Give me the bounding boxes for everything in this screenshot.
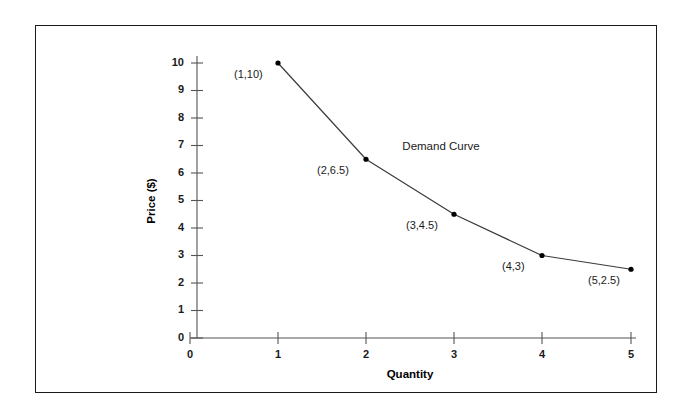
x-axis-tick-labels: 0 1 2 3 4 5 xyxy=(187,348,634,360)
y-tick-label-2: 2 xyxy=(178,276,184,288)
data-point-marker xyxy=(628,267,633,272)
demand-curve-annotation: Demand Curve xyxy=(402,140,479,152)
data-point-marker xyxy=(451,212,456,217)
x-tick-label-5: 5 xyxy=(628,348,634,360)
data-point-labels: (1,10) (2,6.5) (3,4.5) (4,3) (5,2.5) xyxy=(234,68,620,286)
y-tick-label-1: 1 xyxy=(178,303,184,315)
data-point-marker xyxy=(363,157,368,162)
x-tick-label-0: 0 xyxy=(187,348,193,360)
y-tick-label-4: 4 xyxy=(178,221,185,233)
data-point-label: (3,4.5) xyxy=(406,219,438,231)
y-tick-label-5: 5 xyxy=(178,193,184,205)
data-point-marker xyxy=(539,253,544,258)
data-point-label: (1,10) xyxy=(234,68,263,80)
y-tick-label-6: 6 xyxy=(178,166,184,178)
y-tick-label-3: 3 xyxy=(178,248,184,260)
y-tick-label-0: 0 xyxy=(178,331,184,343)
x-tick-label-4: 4 xyxy=(539,348,546,360)
y-tick-label-10: 10 xyxy=(172,56,184,68)
data-point-label: (2,6.5) xyxy=(317,164,349,176)
y-axis-title: Price ($) xyxy=(145,178,157,224)
y-tick-label-9: 9 xyxy=(178,83,184,95)
y-axis-tick-labels: 0 1 2 3 4 5 6 7 8 9 10 xyxy=(172,56,185,343)
data-point-label: (5,2.5) xyxy=(588,274,620,286)
figure-frame: 0 1 2 3 4 5 6 7 8 9 10 0 1 2 3 4 xyxy=(35,25,657,393)
x-tick-label-1: 1 xyxy=(275,348,281,360)
data-point-label: (4,3) xyxy=(502,260,525,272)
x-tick-label-3: 3 xyxy=(451,348,457,360)
y-tick-label-8: 8 xyxy=(178,111,184,123)
x-tick-label-2: 2 xyxy=(363,348,369,360)
x-axis-title: Quantity xyxy=(387,368,434,380)
demand-curve-chart: 0 1 2 3 4 5 6 7 8 9 10 0 1 2 3 4 xyxy=(36,26,658,394)
data-point-marker xyxy=(275,60,280,65)
y-tick-label-7: 7 xyxy=(178,138,184,150)
